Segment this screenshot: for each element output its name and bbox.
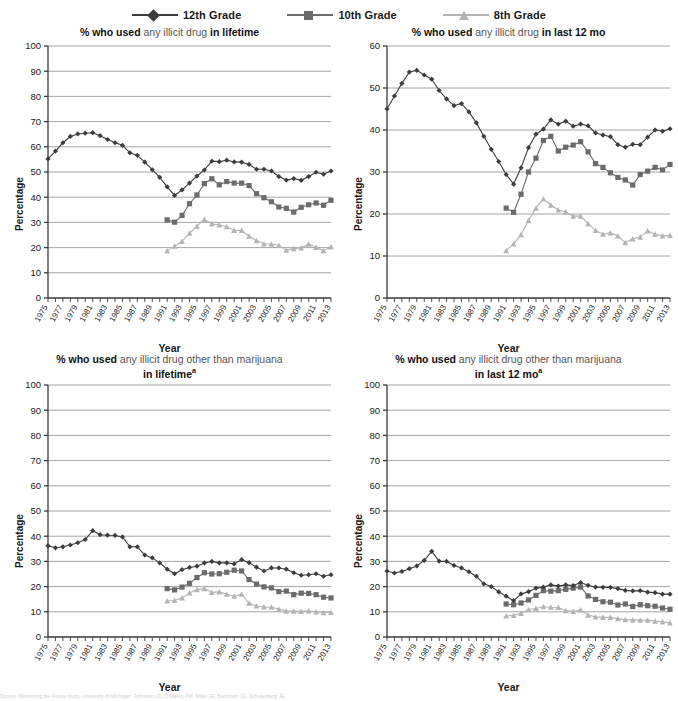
y-tick-label: 90 xyxy=(30,405,41,416)
x-tick-label: 1997 xyxy=(536,303,553,323)
y-tick-label: 10 xyxy=(30,606,41,617)
x-tick-label: 2013 xyxy=(655,642,672,662)
diamond-marker-icon xyxy=(314,571,319,576)
diamond-marker-icon xyxy=(239,160,244,165)
panel-title: % who used any illicit drug in lifetime xyxy=(0,26,339,38)
x-tick-label: 2003 xyxy=(581,303,598,323)
x-tick-label: 2009 xyxy=(625,303,642,323)
y-tick-label: 100 xyxy=(25,40,41,51)
diamond-marker-icon xyxy=(384,568,389,573)
diamond-marker-icon xyxy=(306,174,311,179)
square-marker-icon xyxy=(306,202,311,207)
legend-item-10th-grade: 10th Grade xyxy=(287,9,396,21)
legend-label-12th-grade: 12th Grade xyxy=(183,9,241,21)
x-tick-label: 1997 xyxy=(197,303,214,323)
x-tick-label: 1975 xyxy=(33,303,50,323)
diamond-marker-icon xyxy=(653,590,658,595)
square-marker-icon xyxy=(645,169,650,174)
plot-area: 0102030405060708090100197519771979198119… xyxy=(339,379,678,695)
panel-title: % who used any illicit drug in last 12 m… xyxy=(339,26,678,38)
square-marker-icon xyxy=(194,192,199,197)
y-tick-label: 40 xyxy=(30,192,41,203)
diamond-marker-icon xyxy=(284,177,289,182)
triangle-marker-icon xyxy=(321,248,327,254)
diamond-marker-icon xyxy=(489,147,494,152)
legend-label-10th-grade: 10th Grade xyxy=(338,9,396,21)
square-marker-icon xyxy=(232,180,237,185)
y-tick-label: 90 xyxy=(369,405,380,416)
diamond-marker-icon xyxy=(314,170,319,175)
square-marker-icon xyxy=(224,570,229,575)
square-marker-icon xyxy=(526,597,531,602)
square-marker-icon xyxy=(217,571,222,576)
diamond-marker-icon xyxy=(459,565,464,570)
x-tick-label: 1981 xyxy=(78,303,95,323)
panel-other-than-marijuana-last-12-mo: % who used any illicit drug other than m… xyxy=(339,353,678,693)
diamond-marker-icon xyxy=(299,573,304,578)
panel-title: % who used any illicit drug other than m… xyxy=(0,353,339,380)
series-12th-grade xyxy=(45,130,333,198)
y-tick-label: 30 xyxy=(30,217,41,228)
square-marker-icon xyxy=(653,165,658,170)
y-tick-label: 100 xyxy=(364,379,380,390)
diamond-marker-icon xyxy=(496,159,501,164)
x-tick-label: 1989 xyxy=(476,642,493,662)
square-marker-icon xyxy=(172,587,177,592)
y-tick-label: 80 xyxy=(30,430,41,441)
x-tick-label: 2013 xyxy=(316,303,333,323)
square-marker-icon xyxy=(165,586,170,591)
diamond-marker-icon xyxy=(444,559,449,564)
x-tick-label: 1987 xyxy=(122,642,139,662)
square-marker-icon xyxy=(269,199,274,204)
legend-swatch-10th-grade xyxy=(287,10,333,20)
x-tick-label: 1979 xyxy=(63,642,80,662)
square-marker-icon xyxy=(600,165,605,170)
x-tick-label: 1983 xyxy=(432,642,449,662)
diamond-marker-icon xyxy=(53,545,58,550)
x-tick-label: 1981 xyxy=(417,642,434,662)
diamond-marker-icon xyxy=(407,566,412,571)
x-tick-label: 2007 xyxy=(271,303,288,323)
diamond-marker-icon xyxy=(638,588,643,593)
diamond-marker-icon xyxy=(630,142,635,147)
triangle-marker-icon xyxy=(172,243,178,249)
y-tick-label: 40 xyxy=(369,531,380,542)
diamond-marker-icon xyxy=(600,132,605,137)
square-marker-icon xyxy=(578,139,583,144)
square-marker-icon xyxy=(194,575,199,580)
series-line xyxy=(387,70,670,184)
x-tick-label: 1995 xyxy=(182,303,199,323)
triangle-marker-icon xyxy=(239,591,245,597)
series-8th-grade xyxy=(164,586,334,615)
diamond-marker-icon xyxy=(148,10,159,21)
x-tick-label: 1993 xyxy=(167,303,184,323)
diamond-marker-icon xyxy=(172,571,177,576)
x-tick-label: 2005 xyxy=(256,303,273,323)
y-tick-label: 50 xyxy=(30,505,41,516)
y-tick-label: 90 xyxy=(30,66,41,77)
plot-area: 0102030405060708090100197519771979198119… xyxy=(0,40,339,356)
y-tick-label: 60 xyxy=(30,480,41,491)
x-tick-label: 2005 xyxy=(256,642,273,662)
triangle-marker-icon xyxy=(328,244,334,250)
square-marker-icon xyxy=(254,191,259,196)
square-marker-icon xyxy=(276,589,281,594)
x-tick-label: 1987 xyxy=(461,303,478,323)
x-tick-label: 1993 xyxy=(506,642,523,662)
chart-legend: 12th Grade 10th Grade 8th Grade xyxy=(0,4,678,26)
x-tick-label: 1997 xyxy=(536,642,553,662)
diamond-marker-icon xyxy=(224,158,229,163)
x-tick-label: 1991 xyxy=(152,303,169,323)
x-tick-label: 1989 xyxy=(137,303,154,323)
square-marker-icon xyxy=(518,600,523,605)
diamond-marker-icon xyxy=(392,93,397,98)
diamond-marker-icon xyxy=(217,159,222,164)
diamond-marker-icon xyxy=(481,134,486,139)
x-tick-label: 1993 xyxy=(506,303,523,323)
square-marker-icon xyxy=(608,170,613,175)
plot-area: 0102030405060197519771979198119831985198… xyxy=(339,40,678,356)
square-marker-icon xyxy=(328,198,333,203)
square-marker-icon xyxy=(232,568,237,573)
square-marker-icon xyxy=(239,568,244,573)
x-tick-label: 1991 xyxy=(491,642,508,662)
